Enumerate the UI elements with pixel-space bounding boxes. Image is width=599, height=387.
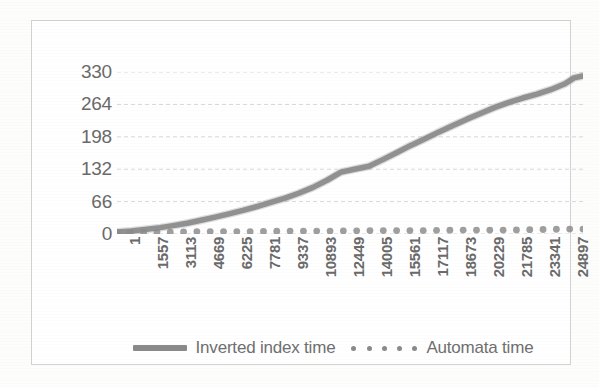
series-line-path [117, 76, 583, 232]
series-marker [233, 228, 240, 234]
series-marker [180, 228, 187, 234]
series-marker [327, 228, 334, 234]
series-marker [433, 227, 440, 234]
series-marker [407, 227, 414, 234]
x-tick-label: 20229 [490, 237, 507, 277]
series-marker [526, 226, 533, 233]
plot-svg [117, 72, 583, 234]
legend-dot-icon [397, 346, 402, 351]
series-marker [580, 226, 583, 233]
series-marker [393, 227, 400, 234]
y-tick-label: 66 [66, 192, 112, 211]
x-tick-label: 7781 [266, 237, 283, 269]
series-inverted-index-time [117, 76, 583, 232]
series-marker [380, 227, 387, 234]
dots-swatch-icon [351, 344, 417, 352]
series-marker [353, 227, 360, 234]
series-marker [473, 227, 480, 234]
series-marker [220, 228, 227, 234]
series-marker [287, 228, 294, 234]
x-tick-label: 9337 [294, 237, 311, 269]
series-marker [340, 228, 347, 234]
legend-label-inverted-index-time: Inverted index time [196, 338, 336, 358]
y-tick-label: 0 [66, 224, 112, 243]
series-marker [566, 226, 573, 233]
x-tick-label: 6225 [238, 237, 255, 269]
series-marker [247, 228, 254, 234]
x-tick-label: 24897 [574, 237, 591, 277]
series-marker [446, 227, 453, 234]
series-marker [540, 226, 547, 233]
series-marker [486, 227, 493, 234]
series-marker [513, 227, 520, 234]
legend-label-automata-time: Automata time [426, 338, 533, 358]
gridlines [117, 72, 583, 234]
y-tick-label: 198 [66, 127, 112, 146]
chart-frame: 066132198264330 115573113466962257781933… [31, 20, 571, 365]
y-tick-label: 264 [66, 94, 112, 113]
series-marker [553, 226, 560, 233]
x-tick-label: 12449 [350, 237, 367, 277]
legend-entry-inverted-index-time: Inverted index time [133, 338, 336, 358]
legend-entry-automata-time: Automata time [351, 338, 533, 358]
x-tick-label: 21785 [518, 237, 535, 277]
series-marker [500, 227, 507, 234]
x-tick-label: 17117 [434, 237, 451, 276]
series-marker [207, 228, 214, 234]
x-tick-label: 15561 [406, 237, 423, 277]
series-marker [460, 227, 467, 234]
series-marker [367, 227, 374, 234]
x-tick-label: 1557 [154, 237, 171, 269]
x-tick-label: 23341 [546, 237, 563, 277]
legend-dot-icon [351, 346, 356, 351]
plot-area [117, 72, 583, 234]
series-marker [260, 228, 267, 234]
series-marker [313, 228, 320, 234]
x-tick-label: 14005 [378, 237, 395, 277]
legend-dot-icon [367, 346, 372, 351]
y-tick-label: 330 [66, 62, 112, 81]
line-swatch-icon [133, 345, 187, 351]
y-tick-label: 132 [66, 159, 112, 178]
series-marker [193, 228, 200, 234]
x-tick-label: 10893 [322, 237, 339, 277]
x-tick-label: 4669 [210, 237, 227, 269]
legend-dot-icon [382, 346, 387, 351]
series-marker [420, 227, 427, 234]
chart-page: 066132198264330 115573113466962257781933… [0, 0, 599, 387]
x-tick-label: 3113 [182, 237, 199, 268]
x-tick-label: 1 [126, 237, 143, 245]
chart-legend: Inverted index time Automata time [63, 333, 599, 363]
x-axis: 1155731134669622577819337108931244914005… [117, 237, 583, 347]
x-tick-label: 18673 [462, 237, 479, 277]
series-marker [273, 228, 280, 234]
y-axis: 066132198264330 [66, 57, 112, 249]
legend-dot-icon [412, 346, 417, 351]
series-marker [300, 228, 307, 234]
